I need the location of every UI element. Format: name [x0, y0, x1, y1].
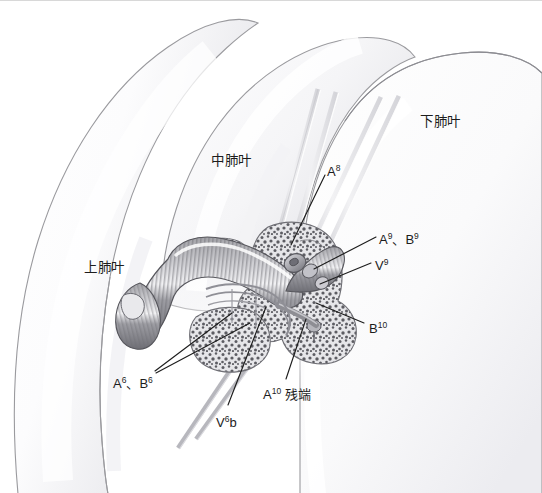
label-v9-base: V [375, 258, 384, 273]
label-v6b: V6b [216, 415, 237, 429]
label-a9-base: A [379, 232, 388, 247]
label-lower-lobe: 下肺叶 [420, 115, 461, 129]
illustration-canvas [0, 1, 542, 493]
label-b10-sup: 10 [378, 320, 387, 330]
label-b10-base: B [369, 321, 378, 336]
label-upper-lobe: 上肺叶 [84, 261, 125, 275]
lung-anatomy-figure: 上肺叶 中肺叶 下肺叶 A8 A9、B9 V9 B10 A6、B6 A10 残端… [0, 0, 542, 493]
label-b6-sup: 6 [148, 375, 153, 385]
label-b6-base: 、B [126, 376, 148, 391]
label-v9: V9 [375, 258, 388, 272]
label-b10: B10 [369, 321, 387, 335]
label-a10-stump: A10 残端 [263, 387, 311, 401]
label-v9-sup: 9 [384, 257, 389, 267]
stippled-parenchyma-left [190, 307, 270, 372]
label-a6-b6: A6、B6 [113, 376, 153, 390]
label-b9-base: 、B [392, 232, 414, 247]
label-a8-sup: 8 [336, 163, 341, 173]
label-v6b-base: V [216, 415, 225, 430]
label-a10-tail: 残端 [281, 387, 311, 402]
label-b9-sup: 9 [414, 231, 419, 241]
label-a6-base: A [113, 376, 122, 391]
label-middle-lobe: 中肺叶 [211, 154, 252, 168]
label-a9-b9: A9、B9 [379, 232, 419, 246]
label-a10-base: A [263, 387, 272, 402]
label-a10-sup: 10 [272, 386, 281, 396]
label-a8: A8 [327, 164, 340, 178]
label-a8-base: A [327, 164, 336, 179]
label-v6b-tail: b [229, 415, 236, 430]
